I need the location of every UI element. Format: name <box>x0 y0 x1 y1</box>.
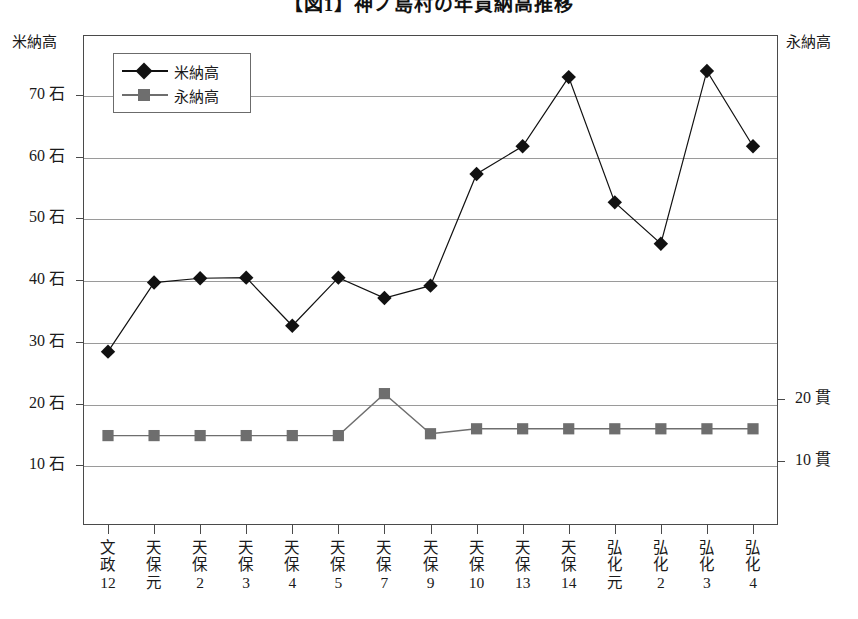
data-point-marker <box>379 388 390 399</box>
data-point-marker <box>517 423 528 434</box>
legend-swatch <box>122 64 168 78</box>
legend-item[interactable]: 米納高 <box>114 59 250 83</box>
data-point-marker <box>101 344 115 358</box>
data-point-marker <box>469 167 483 181</box>
data-point-marker <box>148 430 159 441</box>
data-point-marker <box>333 430 344 441</box>
legend-item[interactable]: 永納高 <box>114 83 250 107</box>
data-point-marker <box>747 423 758 434</box>
data-point-marker <box>193 271 207 285</box>
legend-label: 米納高 <box>174 61 219 82</box>
data-point-marker <box>609 423 620 434</box>
legend-label: 永納高 <box>174 85 219 106</box>
data-point-marker <box>423 278 437 292</box>
data-point-marker <box>287 430 298 441</box>
series-line <box>108 71 753 352</box>
data-point-marker <box>425 428 436 439</box>
data-point-marker <box>195 430 206 441</box>
data-point-marker <box>562 70 576 84</box>
data-point-marker <box>701 423 712 434</box>
data-point-marker <box>147 275 161 289</box>
chart-legend: 米納高永納高 <box>113 53 251 113</box>
square-marker-icon <box>138 89 150 101</box>
data-point-marker <box>377 291 391 305</box>
data-point-marker <box>746 139 760 153</box>
data-point-marker <box>102 430 113 441</box>
data-point-marker <box>655 423 666 434</box>
diamond-marker-icon <box>136 63 153 80</box>
data-point-marker <box>241 430 252 441</box>
data-point-marker <box>471 423 482 434</box>
legend-swatch <box>122 88 168 102</box>
data-point-marker <box>515 139 529 153</box>
data-point-marker <box>700 64 714 78</box>
data-point-marker <box>563 423 574 434</box>
chart-page: 【図1】神ノ島村の年貢納高推移 米納高 永納高 70 石60 石50 石40 石… <box>0 0 858 619</box>
